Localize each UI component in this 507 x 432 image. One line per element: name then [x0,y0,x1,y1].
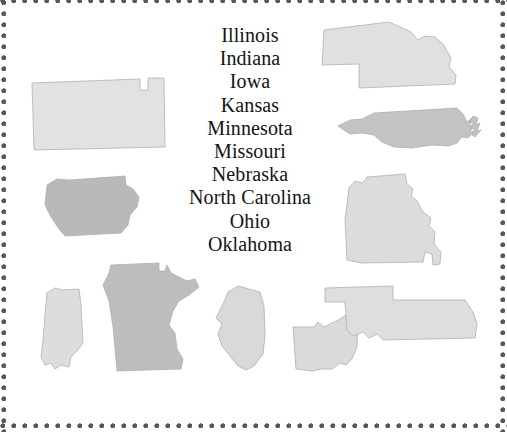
state-shape-iowa [41,171,149,243]
word-list-item-illinois: Illinois [150,24,350,47]
state-shape-indiana [33,281,91,377]
word-list-item-kansas: Kansas [150,94,350,117]
state-shape-north-carolina [336,104,488,152]
oklahoma-outline [325,286,477,340]
indiana-outline [41,288,83,369]
worksheet-canvas: Illinois Indiana Iowa Kansas Minnesota M… [0,0,507,432]
kansas-outline [32,78,165,150]
word-list-item-north-carolina: North Carolina [150,186,350,209]
word-list-item-missouri: Missouri [150,140,350,163]
border-dots-bottom [0,423,507,429]
state-shape-missouri [337,170,449,268]
word-list-item-oklahoma: Oklahoma [150,233,350,256]
state-name-word-list: Illinois Indiana Iowa Kansas Minnesota M… [150,24,350,256]
minnesota-outline [103,263,199,371]
word-list-item-nebraska: Nebraska [150,163,350,186]
state-shape-oklahoma [323,280,487,350]
word-list-item-minnesota: Minnesota [150,117,350,140]
state-shape-kansas [28,74,168,154]
border-dots-left [1,0,7,432]
iowa-outline [45,176,139,236]
state-shape-minnesota [95,255,207,377]
north-carolina-outline [338,108,475,148]
border-dots-top [0,0,507,4]
word-list-item-ohio: Ohio [150,210,350,233]
border-dots-right [500,0,506,432]
missouri-outline [345,174,441,265]
word-list-item-indiana: Indiana [150,47,350,70]
state-shape-illinois [206,280,274,376]
illinois-outline [216,286,265,370]
word-list-item-iowa: Iowa [150,70,350,93]
